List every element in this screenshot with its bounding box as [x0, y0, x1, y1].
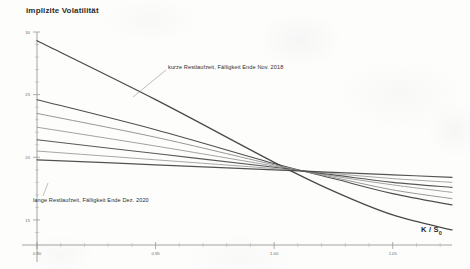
x-axis-title: K / S0 [421, 225, 442, 236]
leader-line-long [43, 183, 48, 196]
x-tick-label: 0.95 [151, 251, 160, 256]
chart-plot-area: 15202530 0.900.951.001.05 [0, 0, 470, 269]
y-tick-label: 20 [25, 155, 30, 160]
annotation-leader-lines [43, 70, 166, 196]
annotation-long-maturity: lange Restlaufzeit, Fälligkeit Ende Dez.… [33, 197, 149, 203]
x-tick-label: 0.90 [33, 251, 42, 256]
x-axis-ticks: 0.900.951.001.05 [33, 242, 440, 256]
volatility-curve [37, 151, 452, 182]
leader-line-short [133, 70, 166, 97]
y-tick-label: 30 [25, 30, 30, 35]
y-tick-label: 25 [25, 92, 30, 97]
x-axis-title-subscript: 0 [439, 230, 442, 236]
y-tick-label: 15 [25, 218, 30, 223]
volatility-curve [37, 160, 452, 178]
x-axis-title-main: K / S [421, 225, 439, 234]
x-tick-label: 1.00 [270, 251, 279, 256]
annotation-short-maturity: kurze Restlaufzeit, Fälligkeit Ende Nov.… [168, 64, 283, 70]
x-tick-label: 1.05 [389, 251, 398, 256]
volatility-curve [37, 127, 452, 192]
